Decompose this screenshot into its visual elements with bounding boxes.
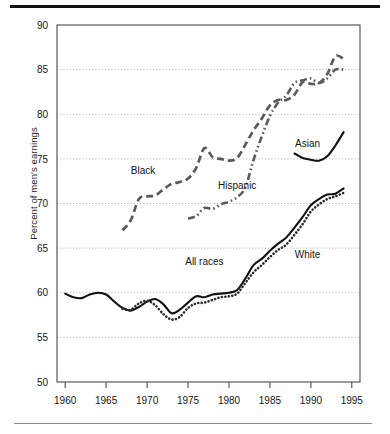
x-tick-label: 1975	[177, 395, 200, 406]
gridlines	[57, 70, 360, 338]
series-label-white: White	[295, 249, 321, 260]
y-tick-label: 65	[37, 243, 49, 254]
y-tick-label: 80	[37, 109, 49, 120]
x-axis-ticks	[65, 382, 352, 388]
y-tick-label: 70	[37, 198, 49, 209]
series-label-all-races: All races	[185, 256, 223, 267]
y-tick-label: 50	[37, 377, 49, 388]
y-tick-label: 75	[37, 154, 49, 165]
y-tick-label: 60	[37, 287, 49, 298]
x-tick-label: 1990	[300, 395, 323, 406]
line-chart-plot: 505560657075808590 196019651970197519801…	[0, 0, 390, 420]
top-rule	[10, 5, 380, 8]
y-tick-label: 55	[37, 332, 49, 343]
y-axis-label: Percent of men's earnings	[28, 99, 39, 269]
x-tick-label: 1965	[95, 395, 118, 406]
series-label-hispanic: Hispanic	[218, 180, 256, 191]
chart-figure: Percent of men's earnings 50556065707580…	[0, 0, 390, 434]
x-tick-label: 1995	[341, 395, 364, 406]
y-tick-label: 85	[37, 64, 49, 75]
x-tick-label: 1970	[136, 395, 159, 406]
x-axis-tick-labels: 19601965197019751980198519901995	[54, 395, 363, 406]
bottom-rule	[14, 423, 372, 424]
y-tick-label: 90	[37, 20, 49, 31]
y-axis-tick-labels: 505560657075808590	[37, 20, 49, 388]
x-tick-label: 1980	[218, 395, 241, 406]
series-lines	[65, 56, 343, 320]
series-line-hispanic	[188, 69, 344, 219]
x-tick-label: 1960	[54, 395, 77, 406]
x-tick-label: 1985	[259, 395, 282, 406]
series-label-black: Black	[131, 165, 156, 176]
series-label-asian: Asian	[295, 138, 320, 149]
